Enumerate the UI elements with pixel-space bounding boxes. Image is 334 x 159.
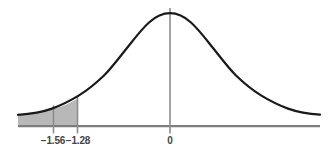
- x-axis-tick-label-zero: 0: [150, 135, 190, 146]
- left-tail-shaded-area: [18, 99, 78, 126]
- x-axis-tick-label-neg128: −1.28: [57, 135, 99, 146]
- normal-distribution-figure: −1.56 −1.28 0: [0, 0, 334, 159]
- normal-density-curve: [18, 13, 320, 115]
